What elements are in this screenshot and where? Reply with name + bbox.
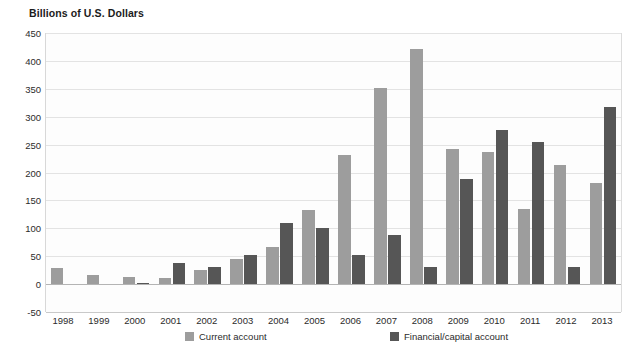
bar — [338, 155, 351, 284]
bar — [173, 263, 186, 284]
y-axis-tick-label: 250 — [1, 139, 41, 150]
bar — [482, 152, 495, 284]
bar-group — [87, 33, 114, 312]
bar-group — [266, 33, 293, 312]
x-axis-tick-label: 2004 — [268, 315, 289, 326]
legend-swatch-icon — [185, 332, 194, 341]
bar — [194, 270, 207, 285]
x-axis-tick-label: 2000 — [124, 315, 145, 326]
bar — [518, 209, 531, 284]
bar — [352, 255, 365, 284]
y-axis-tick-label: -50 — [1, 307, 41, 318]
x-axis-tick-label: 2009 — [448, 315, 469, 326]
y-axis-tick-label: 0 — [1, 279, 41, 290]
legend-item[interactable]: Financial/capital account — [390, 331, 508, 342]
bar-group — [159, 33, 186, 312]
bar — [410, 49, 423, 284]
y-axis-tick-label: 300 — [1, 111, 41, 122]
x-axis-tick-label: 2006 — [340, 315, 361, 326]
bar-group — [446, 33, 473, 312]
bar — [208, 267, 221, 284]
x-axis-tick-label: 2013 — [591, 315, 612, 326]
bar — [316, 228, 329, 284]
bar — [302, 210, 315, 284]
bar — [496, 130, 509, 285]
x-axis-tick-label: 2001 — [160, 315, 181, 326]
y-axis-tick-label: 100 — [1, 223, 41, 234]
bar — [532, 142, 545, 284]
bar — [87, 275, 100, 284]
bar — [137, 283, 150, 284]
y-axis-tick-label: 350 — [1, 83, 41, 94]
x-axis-tick-label: 2007 — [376, 315, 397, 326]
bar-group — [230, 33, 257, 312]
bar — [424, 267, 437, 284]
bar — [388, 235, 401, 284]
bar — [280, 223, 293, 284]
legend-item[interactable]: Current account — [185, 331, 267, 342]
bar-group — [194, 33, 221, 312]
bar — [446, 149, 459, 285]
bar — [266, 247, 279, 284]
x-axis-tick-label: 2002 — [196, 315, 217, 326]
legend-label: Current account — [199, 331, 267, 342]
chart-legend: Current accountFinancial/capital account — [45, 331, 622, 343]
bar — [51, 268, 64, 284]
y-axis-tick-label: 50 — [1, 251, 41, 262]
bar — [590, 183, 603, 284]
bar — [159, 278, 172, 284]
bar — [568, 267, 581, 284]
y-axis-tick-label: 150 — [1, 195, 41, 206]
legend-label: Financial/capital account — [404, 331, 508, 342]
x-axis-tick-label: 2010 — [484, 315, 505, 326]
bar-group — [51, 33, 78, 312]
y-axis-tick-label: 450 — [1, 28, 41, 39]
bar-group — [410, 33, 437, 312]
legend-swatch-icon — [390, 332, 399, 341]
y-axis: 450400350300250200150100500-50 — [0, 33, 41, 312]
bar-chart: Billions of U.S. Dollars 450400350300250… — [0, 0, 634, 346]
plot-area — [45, 33, 622, 312]
bar — [123, 277, 136, 284]
bar-group — [302, 33, 329, 312]
bar — [554, 165, 567, 284]
bar — [244, 255, 257, 284]
y-axis-tick-label: 200 — [1, 167, 41, 178]
bar-group — [518, 33, 545, 312]
y-axis-tick-label: 400 — [1, 55, 41, 66]
chart-title: Billions of U.S. Dollars — [29, 7, 144, 19]
x-axis: 1998199920002001200220032004200520062007… — [45, 313, 622, 329]
bar — [604, 107, 617, 284]
x-axis-tick-label: 2012 — [556, 315, 577, 326]
x-axis-tick-label: 1998 — [52, 315, 73, 326]
bar-group — [338, 33, 365, 312]
bar — [230, 259, 243, 284]
x-axis-tick-label: 1999 — [88, 315, 109, 326]
bar — [460, 179, 473, 284]
x-axis-tick-label: 2005 — [304, 315, 325, 326]
x-axis-tick-label: 2008 — [412, 315, 433, 326]
bar-group — [374, 33, 401, 312]
bar-group — [554, 33, 581, 312]
bar-group — [482, 33, 509, 312]
x-axis-tick-label: 2003 — [232, 315, 253, 326]
bar-group — [123, 33, 150, 312]
x-axis-tick-label: 2011 — [520, 315, 540, 326]
bar — [374, 88, 387, 284]
bar-group — [590, 33, 617, 312]
